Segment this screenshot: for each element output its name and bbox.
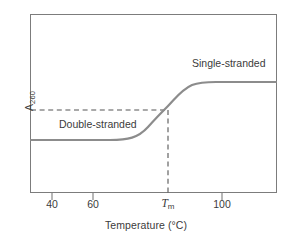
x-tick-label-tm: Tm	[148, 197, 188, 211]
y-axis-title-base: A	[23, 104, 35, 111]
x-axis-title: Temperature (°C)	[0, 219, 292, 231]
x-tick-label-100: 100	[202, 198, 242, 210]
x-tick-label-60: 60	[73, 198, 113, 210]
tm-subscript: m	[168, 202, 175, 211]
double-stranded-label: Double-stranded	[59, 118, 137, 130]
single-stranded-label: Single-stranded	[192, 57, 266, 69]
melting-curve-figure: Double-stranded Single-stranded 40 60 Tm…	[0, 0, 292, 243]
y-axis-title: A260	[23, 77, 37, 125]
melting-curve	[31, 82, 276, 140]
x-tick-label-40: 40	[32, 198, 72, 210]
y-axis-title-subscript: 260	[28, 91, 37, 104]
